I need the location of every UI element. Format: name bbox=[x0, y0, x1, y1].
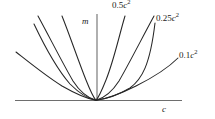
curve-label-0.25-coefficient: 0.25 bbox=[156, 13, 172, 23]
curve-label-0.5-exponent: 2 bbox=[127, 0, 130, 5]
curve-0.5 bbox=[62, 16, 125, 100]
curve-unlabeled-steepest bbox=[38, 16, 154, 100]
x-axis-label: c bbox=[162, 105, 166, 114]
curve-label-0.5: 0.5c2 bbox=[112, 1, 131, 10]
curve-0.25 bbox=[16, 23, 155, 100]
curve-label-0.1-exponent: 2 bbox=[194, 48, 197, 55]
curve-label-0.25-exponent: 2 bbox=[176, 11, 179, 18]
curve-label-0.1: 0.1c2 bbox=[179, 51, 198, 60]
curve-label-0.25: 0.25c2 bbox=[156, 14, 179, 23]
curve-label-0.5-coefficient: 0.5 bbox=[112, 0, 123, 10]
figure-container: m c 0.5c2 0.25c2 0.1c2 bbox=[0, 0, 215, 119]
curve-0.1 bbox=[34, 24, 178, 100]
y-axis-label: m bbox=[82, 17, 89, 26]
curve-label-0.1-coefficient: 0.1 bbox=[179, 50, 190, 60]
